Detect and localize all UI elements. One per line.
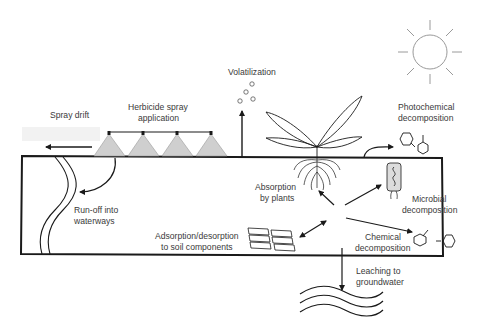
absorption-label-2: by plants: [260, 193, 294, 204]
root-icon: [294, 157, 340, 190]
adsorption-arrow: [300, 221, 326, 237]
adsorption-label-2: to soil components: [161, 242, 233, 253]
sun-icon: [398, 20, 462, 84]
vapor-bubbles-icon: [238, 82, 255, 103]
spray-drift-label: Spray drift: [50, 110, 89, 121]
soil-particles-icon: [248, 228, 295, 251]
runoff-label-1: Run-off into: [74, 205, 118, 216]
herbicide-fate-diagram: [0, 0, 481, 336]
groundwater-waves-icon: [300, 286, 383, 316]
runoff-label-2: waterways: [74, 216, 115, 227]
chemical-label-2: decomposition: [355, 243, 410, 254]
chemical-label-1: Chemical: [365, 232, 401, 243]
absorption-label-1: Absorption: [255, 182, 296, 193]
microbial-label-1: Microbial: [412, 194, 446, 205]
sprayer-icon: [94, 131, 227, 156]
photochemical-label-2: decomposition: [398, 113, 453, 124]
leaching-label-2: groundwater: [356, 277, 404, 288]
runoff-arrow: [80, 158, 115, 192]
molecule-icon: [414, 230, 455, 247]
herbicide-spray-label-1: Herbicide spray: [128, 102, 188, 113]
microbial-arrow: [345, 185, 381, 205]
microbial-label-2: decomposition: [402, 205, 457, 216]
spray-drift-arrow: [22, 127, 100, 147]
molecule-icon: [400, 133, 428, 154]
photochemical-label-1: Photochemical: [398, 102, 454, 113]
plant-icon: [266, 96, 362, 157]
photochemical-arrow: [364, 147, 393, 157]
herbicide-spray-label-2: application: [138, 113, 179, 124]
leaching-label-1: Leaching to: [356, 266, 400, 277]
volatilization-label: Volatilization: [228, 67, 276, 78]
absorption-arrow: [319, 191, 334, 205]
waterway-icon: [40, 157, 76, 254]
chemical-arrow: [346, 218, 412, 232]
adsorption-label-1: Adsorption/desorption: [155, 231, 239, 242]
microbe-icon: [387, 163, 401, 199]
